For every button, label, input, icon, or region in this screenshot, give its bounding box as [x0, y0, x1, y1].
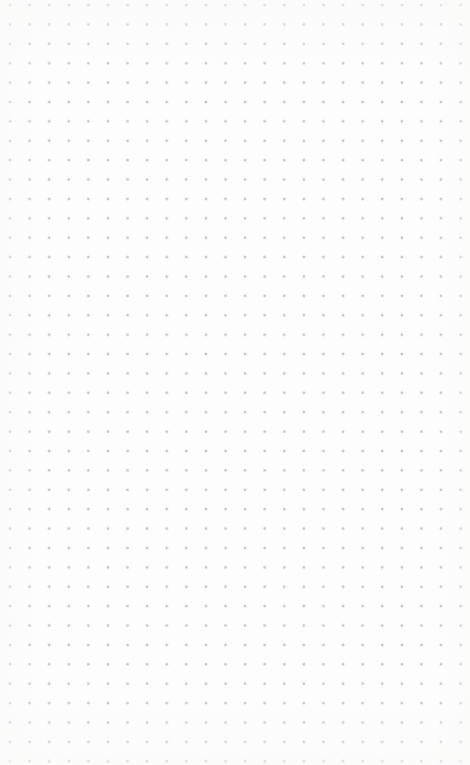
dot-grid-pattern	[0, 0, 470, 765]
dot-grid-canvas[interactable]	[0, 0, 470, 765]
